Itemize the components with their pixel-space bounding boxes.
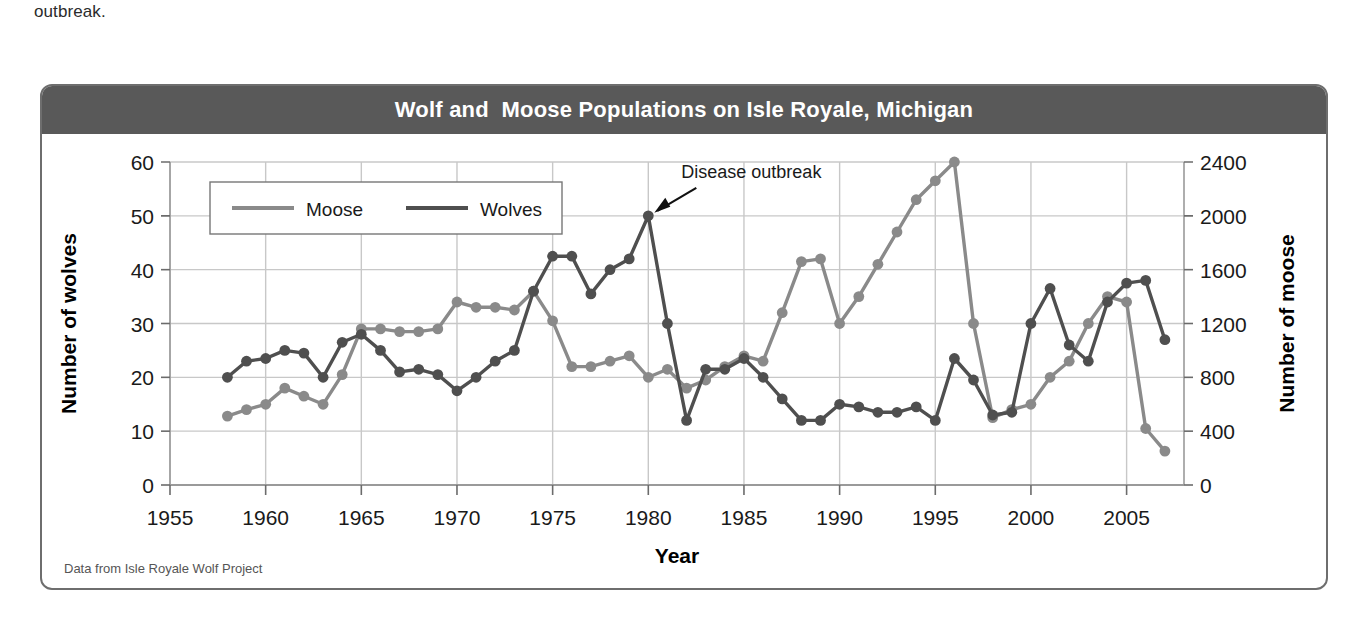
series-line-wolves [227, 216, 1165, 421]
data-point [337, 337, 348, 348]
data-point [394, 367, 405, 378]
data-point [566, 251, 577, 262]
annotation-label: Disease outbreak [681, 162, 822, 182]
data-point [873, 407, 884, 418]
data-point [1140, 275, 1151, 286]
data-point [758, 372, 769, 383]
chart-legend: MooseWolves [210, 182, 562, 234]
x-axis-tick-label: 2005 [1103, 506, 1150, 529]
data-point [356, 329, 367, 340]
data-point [834, 318, 845, 329]
right-axis-tick-label: 400 [1200, 420, 1235, 443]
data-point [260, 353, 271, 364]
data-point [241, 356, 252, 367]
data-point [394, 326, 405, 337]
data-point [719, 364, 730, 375]
data-point [222, 411, 233, 422]
data-point [911, 194, 922, 205]
left-axis-tick-label: 20 [131, 366, 154, 389]
left-axis-tick-label: 10 [131, 420, 154, 443]
data-point [777, 394, 788, 405]
data-point [968, 318, 979, 329]
data-point [471, 372, 482, 383]
data-point [1083, 318, 1094, 329]
data-point [1045, 372, 1056, 383]
legend-label-moose: Moose [306, 199, 363, 220]
data-point [796, 415, 807, 426]
data-point [279, 383, 290, 394]
data-point [1121, 297, 1132, 308]
left-axis-tick-label: 60 [131, 151, 154, 174]
data-point [662, 364, 673, 375]
data-point [413, 364, 424, 375]
series-wolves [222, 210, 1170, 425]
right-axis-tick-label: 2000 [1200, 205, 1247, 228]
data-point [1121, 278, 1132, 289]
right-axis-tick-label: 800 [1200, 366, 1235, 389]
data-point [260, 399, 271, 410]
data-point [413, 326, 424, 337]
data-point [853, 402, 864, 413]
data-point [528, 286, 539, 297]
data-point [605, 264, 616, 275]
data-point [873, 259, 884, 270]
data-point [432, 324, 443, 335]
data-point [452, 385, 463, 396]
legend-label-wolves: Wolves [480, 199, 542, 220]
data-point [432, 369, 443, 380]
data-point [490, 302, 501, 313]
data-point [547, 251, 558, 262]
x-axis-tick-label: 1995 [912, 506, 959, 529]
data-point [1026, 318, 1037, 329]
data-point [279, 345, 290, 356]
x-axis-tick-label: 1970 [434, 506, 481, 529]
x-axis-title: Year [655, 544, 699, 567]
data-point [241, 404, 252, 415]
data-point [643, 210, 654, 221]
data-point [586, 361, 597, 372]
data-point [758, 356, 769, 367]
right-axis-title: Number of moose [1275, 234, 1298, 413]
right-axis-tick-label: 1200 [1200, 313, 1247, 336]
x-axis-tick-label: 1985 [721, 506, 768, 529]
data-point [949, 157, 960, 168]
data-point [509, 345, 520, 356]
x-axis-tick-label: 1975 [529, 506, 576, 529]
data-point [471, 302, 482, 313]
data-point [1045, 283, 1056, 294]
data-point [586, 289, 597, 300]
data-point [777, 307, 788, 318]
x-axis-tick-label: 2000 [1008, 506, 1055, 529]
data-point [509, 305, 520, 316]
data-point [624, 254, 635, 265]
chart-source-note: Data from Isle Royale Wolf Project [64, 561, 262, 576]
data-point [222, 372, 233, 383]
data-point [452, 297, 463, 308]
data-point [681, 415, 692, 426]
chart-figure: Wolf and Moose Populations on Isle Royal… [40, 84, 1328, 590]
x-axis-tick-label: 1960 [242, 506, 289, 529]
data-point [1026, 399, 1037, 410]
data-point [624, 350, 635, 361]
x-axis-tick-label: 1980 [625, 506, 672, 529]
data-point [815, 415, 826, 426]
right-axis-tick-label: 0 [1200, 474, 1212, 497]
data-point [739, 353, 750, 364]
page-root: outbreak. Wolf and Moose Populations on … [0, 0, 1369, 629]
chart-plot-container: MooseWolvesDisease outbreak0102030405060… [42, 134, 1326, 590]
data-point [318, 372, 329, 383]
x-axis-tick-label: 1990 [816, 506, 863, 529]
x-axis-tick-label: 1955 [147, 506, 194, 529]
data-point [700, 364, 711, 375]
chart-title-bar: Wolf and Moose Populations on Isle Royal… [42, 86, 1326, 134]
data-point [1160, 446, 1171, 457]
data-point [490, 356, 501, 367]
chart-canvas: MooseWolvesDisease outbreak0102030405060… [42, 134, 1326, 590]
data-point [796, 256, 807, 267]
data-point [605, 356, 616, 367]
data-point [337, 369, 348, 380]
left-axis-title: Number of wolves [57, 233, 80, 414]
data-point [1102, 297, 1113, 308]
data-point [1006, 407, 1017, 418]
data-point [566, 361, 577, 372]
